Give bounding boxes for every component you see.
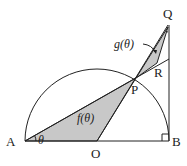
label-g-theta: g(θ) bbox=[114, 37, 134, 51]
label-q: Q bbox=[163, 6, 173, 21]
label-a: A bbox=[6, 134, 16, 149]
label-r: R bbox=[154, 65, 163, 80]
label-p: P bbox=[131, 82, 138, 97]
label-b: B bbox=[172, 134, 181, 149]
label-theta: θ bbox=[38, 133, 44, 147]
right-angle-mark bbox=[162, 134, 169, 141]
geometry-diagram: A B O P Q R θ f(θ) g(θ) bbox=[0, 0, 187, 166]
label-f-theta: f(θ) bbox=[77, 111, 94, 125]
label-o: O bbox=[91, 146, 100, 161]
